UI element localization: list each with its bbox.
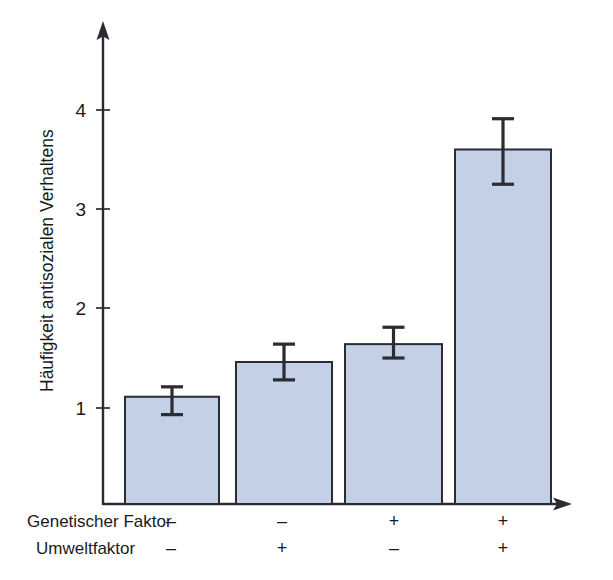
condition-environment-sign-1: – [166,538,176,558]
condition-row-label-environment: Umweltfaktor [36,539,136,558]
condition-genetic-sign-4: + [498,511,509,531]
y-tick-label-1: 1 [75,398,86,419]
bar-chart-figure: 1 2 3 4 Häufigkeit antisozialen Verhalte… [0,0,613,580]
condition-environment-sign-4: + [498,538,509,558]
condition-genetic-sign-2: – [277,511,287,531]
condition-environment-sign-2: + [277,538,288,558]
y-axis-label: Häufigkeit antisozialen Verhaltens [37,129,57,392]
y-tick-label-2: 2 [75,298,86,319]
bar-3[interactable] [345,344,442,504]
condition-genetic-sign-3: + [389,511,400,531]
y-tick-label-3: 3 [75,199,86,220]
condition-genetic-sign-1: – [166,511,176,531]
y-tick-label-4: 4 [75,100,86,121]
condition-environment-sign-3: – [389,538,399,558]
bar-4[interactable] [455,149,551,504]
condition-row-label-genetic: Genetischer Faktor [27,512,172,531]
bar-2[interactable] [236,362,332,504]
